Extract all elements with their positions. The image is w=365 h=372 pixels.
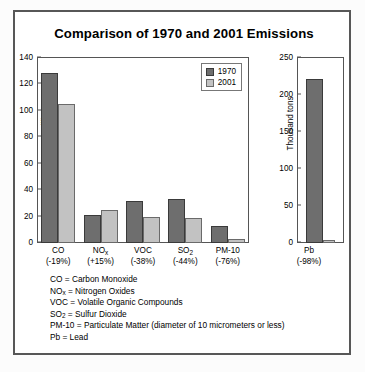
bar-2001-SO2 xyxy=(185,218,202,243)
x-axis-label-PM-10: PM-10(-76%) xyxy=(208,246,248,267)
bar-2001-NOx xyxy=(101,210,118,243)
y-tick-label: 50 xyxy=(284,201,293,210)
bar-group xyxy=(126,57,160,243)
chart-frame: Comparison of 1970 and 2001 Emissions Mi… xyxy=(13,10,351,355)
bar-1970-Pb xyxy=(306,79,323,243)
y-tick-label: 250 xyxy=(279,53,293,62)
definition-PM10: PM-10 = Particulate Matter (diameter of … xyxy=(50,320,340,332)
bar-1970-VOC xyxy=(126,201,143,243)
bar-2001-CO xyxy=(58,104,75,243)
x-axis-label-Pb: Pb(-98%) xyxy=(289,246,329,267)
y-tick-label: 100 xyxy=(279,164,293,173)
y-tick-label: 100 xyxy=(19,105,33,114)
legend-definitions: CO = Carbon MonoxideNOx = Nitrogen Oxide… xyxy=(50,274,340,344)
chart-legend: 1970 2001 xyxy=(201,63,242,91)
legend-swatch-2001 xyxy=(206,79,214,87)
bar-1970-NOx xyxy=(84,215,101,243)
y-tick-label: 0 xyxy=(28,238,33,247)
bar-group xyxy=(84,57,118,243)
y-tick-label: 150 xyxy=(279,127,293,136)
bar-1970-CO xyxy=(41,73,58,243)
main-x-axis-labels: CO(-19%)NOx(+15%)VOC(-38%)SO2(-44%)PM-10… xyxy=(37,246,249,267)
chart-page: Comparison of 1970 and 2001 Emissions Mi… xyxy=(0,0,365,372)
legend-item-1970: 1970 xyxy=(206,67,236,76)
definition-VOC: VOC = Volatile Organic Compounds xyxy=(50,297,340,309)
y-tick-label: 200 xyxy=(279,90,293,99)
main-bar-chart: Million tons 020406080100120140 CO(-19%)… xyxy=(37,57,249,243)
y-tick-label: 60 xyxy=(24,158,33,167)
legend-item-2001: 2001 xyxy=(206,78,236,87)
lead-bar-series xyxy=(297,57,344,243)
bar-2001-PM-10 xyxy=(228,239,245,243)
bar-2001-Pb xyxy=(323,240,335,243)
definition-NO: NOx = Nitrogen Oxides xyxy=(50,286,340,298)
bar-group xyxy=(41,57,75,243)
legend-swatch-1970 xyxy=(206,68,214,76)
definition-SO: SO2 = Sulfur Dioxide xyxy=(50,309,340,321)
legend-label-1970: 1970 xyxy=(218,67,236,76)
x-axis-label-SO2: SO2(-44%) xyxy=(165,246,205,267)
bar-1970-PM-10 xyxy=(211,226,228,243)
y-tick-label: 20 xyxy=(24,211,33,220)
bar-group xyxy=(168,57,202,243)
y-tick-label: 120 xyxy=(19,79,33,88)
bar-2001-VOC xyxy=(143,217,160,243)
page-title: Comparison of 1970 and 2001 Emissions xyxy=(15,26,353,41)
x-axis-label-NOx: NOx(+15%) xyxy=(81,246,121,267)
legend-label-2001: 2001 xyxy=(218,78,236,87)
y-tick-label: 80 xyxy=(24,132,33,141)
lead-x-axis-labels: Pb(-98%) xyxy=(289,246,352,267)
x-axis-label-VOC: VOC(-38%) xyxy=(123,246,163,267)
x-axis-label-CO: CO(-19%) xyxy=(38,246,78,267)
bar-1970-SO2 xyxy=(168,199,185,243)
definition-CO: CO = Carbon Monoxide xyxy=(50,274,340,286)
bar-group xyxy=(306,57,335,243)
lead-bar-chart: Thousand tons 050100150200250 Pb(-98%) xyxy=(297,57,344,243)
y-tick-label: 40 xyxy=(24,185,33,194)
definition-Pb: Pb = Lead xyxy=(50,332,340,344)
y-tick-label: 140 xyxy=(19,53,33,62)
